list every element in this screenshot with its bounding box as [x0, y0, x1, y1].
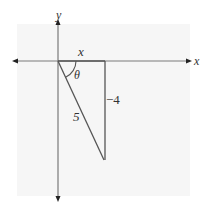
y-axis-down-arrow-icon [56, 196, 61, 202]
hypotenuse-label: 5 [73, 110, 80, 123]
adjacent-side-label: x [78, 45, 84, 58]
y-axis [56, 19, 61, 202]
y-axis-label: y [56, 9, 61, 21]
angle-theta-label: θ [74, 69, 80, 81]
diagram-canvas: y x x θ −4 5 [0, 0, 212, 211]
x-axis-left-arrow-icon [12, 59, 18, 64]
hypotenuse [58, 61, 104, 160]
x-axis-label: x [194, 55, 199, 67]
opposite-side-label: −4 [106, 93, 120, 106]
reference-triangle [58, 61, 105, 160]
x-axis-right-arrow-icon [186, 59, 192, 64]
